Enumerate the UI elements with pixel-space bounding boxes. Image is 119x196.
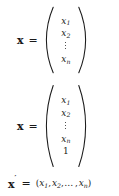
- matrix-entry: xn: [61, 133, 70, 145]
- matrix-entry: x1: [61, 15, 70, 27]
- right-parenthesis-icon: [78, 6, 87, 74]
- equation-vector-homogeneous-lhs: x =: [17, 120, 43, 133]
- vertical-ellipsis: [65, 119, 66, 133]
- close-parenthesis: ): [88, 178, 92, 188]
- row-entry: x2: [52, 178, 61, 188]
- vertical-ellipsis: [65, 39, 66, 53]
- left-parenthesis-icon: [45, 84, 54, 168]
- horizontal-ellipsis: …: [64, 178, 75, 188]
- row-vector-entries: (x1, x2,…, xn): [36, 178, 92, 188]
- variable-x-prime: x′: [8, 176, 16, 191]
- variable-x: x: [17, 120, 24, 133]
- equation-vector-lhs: x =: [17, 34, 43, 47]
- matrix-entry: x2: [61, 107, 70, 119]
- right-parenthesis-icon: [78, 84, 87, 168]
- comma: ,: [48, 178, 51, 188]
- matrix-entries: x1 x2 xn: [54, 6, 78, 74]
- left-parenthesis-icon: [45, 6, 54, 74]
- variable-x: x: [17, 34, 24, 47]
- equals-sign: =: [29, 120, 38, 133]
- matrix-column-vector: x1 x2 xn: [45, 6, 87, 74]
- prime-mark: ′: [15, 173, 17, 182]
- matrix-entry: x1: [61, 94, 70, 106]
- math-figure: x = x1 x2 xn: [0, 0, 119, 196]
- equals-sign: =: [21, 177, 30, 190]
- matrix-entries: x1 x2 xn 1: [54, 84, 78, 168]
- comma: ,: [75, 178, 78, 188]
- equation-vector-homogeneous: x = x1 x2 xn: [0, 84, 119, 168]
- matrix-entry: xn: [61, 53, 70, 65]
- equation-row-vector: x′ = (x1, x2,…, xn): [0, 172, 119, 194]
- matrix-entry-one: 1: [63, 145, 69, 157]
- row-entry: xn: [79, 178, 88, 188]
- row-entry: x1: [39, 178, 48, 188]
- matrix-column-vector-homogeneous: x1 x2 xn 1: [45, 84, 87, 168]
- matrix-entry: x2: [61, 27, 70, 39]
- equation-row-vector-lhs: x′ =: [8, 176, 36, 191]
- equation-vector: x = x1 x2 xn: [0, 6, 119, 74]
- equals-sign: =: [29, 34, 38, 47]
